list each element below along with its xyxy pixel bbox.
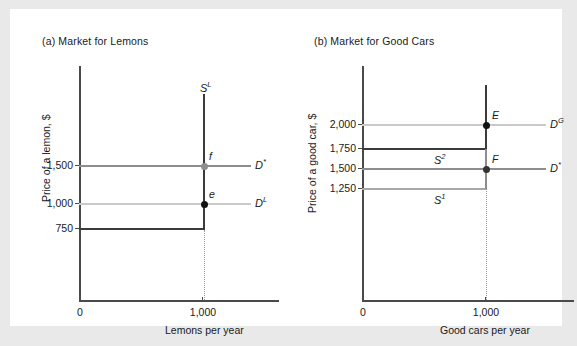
panel-b-ytick-label-1750: 1,750 <box>310 142 356 154</box>
panel-b-ytick-label-2000: 2,000 <box>310 118 356 130</box>
panel-a-xtick-label-1000: 1,000 <box>173 306 233 318</box>
panel-b-demand-good-curve <box>362 124 546 126</box>
panel-a-drop-line <box>204 230 205 300</box>
panel-b-drop-line <box>486 189 487 300</box>
panel-a-y-axis <box>79 66 81 302</box>
panel-a-point-e-label: e <box>209 188 215 200</box>
panel-b-demand-good-label: DG <box>550 116 564 130</box>
panel-a-xtick-label-0: 0 <box>60 306 100 318</box>
panel-b-point-E <box>483 122 490 129</box>
panel-b-ytick-label-1500: 1,500 <box>310 162 356 174</box>
panel-b-title: (b) Market for Good Cars <box>314 35 434 47</box>
panel-market-for-good-cars: (b) Market for Good Cars Price of a good… <box>282 9 572 326</box>
panel-a-demand-star-label-base: D <box>255 159 263 171</box>
panel-b-point-F <box>483 166 490 173</box>
panel-b-xtick-label-0: 0 <box>343 306 383 318</box>
panel-a-ytick-label-1500: 1,500 <box>29 159 73 171</box>
panel-b-point-F-label: F <box>492 153 498 165</box>
panel-b-y-axis <box>362 66 364 302</box>
panel-a-xtick-mark-1000 <box>202 297 203 301</box>
panel-b-supply2-label: S2 <box>434 152 446 166</box>
panel-b-xtick-mark-1000 <box>485 297 486 301</box>
panel-market-for-lemons: (a) Market for Lemons Price of a lemon, … <box>10 9 290 326</box>
panel-a-point-f <box>201 163 208 170</box>
panel-a-supply-curve <box>203 94 205 230</box>
panel-b-demand-good-label-sup: G <box>558 116 564 125</box>
panel-a-ytick-label-750: 750 <box>29 222 73 234</box>
figure-canvas: (a) Market for Lemons Price of a lemon, … <box>10 9 562 326</box>
panel-a-demand-lemon-curve <box>79 203 251 205</box>
panel-b-supply2-label-sup: 2 <box>441 152 445 161</box>
panel-b-supply2-horizontal <box>362 148 487 150</box>
panel-a-demand-star-label-sup: * <box>263 157 266 166</box>
panel-a-x-axis-label: Lemons per year <box>165 324 244 336</box>
figure-outer-frame: (a) Market for Lemons Price of a lemon, … <box>0 0 577 346</box>
panel-a-demand-star-curve <box>79 165 251 167</box>
panel-a-demand-lemon-label-base: D <box>255 197 263 209</box>
panel-a-demand-lemon-label: DL <box>255 195 267 209</box>
panel-b-demand-star-label-sup: * <box>558 160 561 169</box>
panel-a-point-e <box>201 201 208 208</box>
panel-b-supply1-horizontal <box>362 188 487 190</box>
panel-b-demand-star-label: D* <box>550 160 561 174</box>
panel-b-demand-star-curve <box>362 168 546 170</box>
panel-b-supply1-label: S1 <box>434 192 446 206</box>
panel-a-title: (a) Market for Lemons <box>42 35 148 47</box>
panel-a-supply-label-sup: L <box>207 80 211 89</box>
panel-b-supply1-label-sup: 1 <box>441 192 445 201</box>
panel-b-demand-good-label-base: D <box>550 118 558 130</box>
panel-b-ytick-label-1250: 1,250 <box>310 182 356 194</box>
panel-a-ytick-label-1000: 1,000 <box>29 197 73 209</box>
panel-b-supply2-vertical <box>485 85 487 149</box>
panel-b-point-E-label: E <box>492 109 499 121</box>
panel-b-x-axis <box>362 300 574 302</box>
panel-a-price-750-line <box>79 228 204 230</box>
panel-a-point-f-label: f <box>209 150 212 162</box>
panel-b-demand-star-label-base: D <box>550 162 558 174</box>
panel-a-supply-label: SL <box>200 80 212 94</box>
panel-a-x-axis <box>79 300 279 302</box>
panel-a-demand-star-label: D* <box>255 157 266 171</box>
panel-b-x-axis-label: Good cars per year <box>440 324 530 336</box>
panel-a-demand-lemon-label-sup: L <box>263 195 267 204</box>
panel-b-xtick-label-1000: 1,000 <box>456 306 516 318</box>
